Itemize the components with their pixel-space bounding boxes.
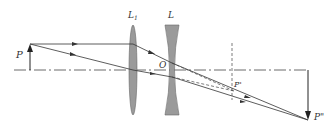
ray-1-arrow [72,42,78,46]
lens1-label: L1 [127,10,138,21]
optical-center-label: O [159,60,167,70]
optics-diagram: P L1 L O P' P" [0,0,336,133]
final-image-label: P" [313,112,324,122]
lens2-label: L [167,10,174,20]
ray-2-arrow-2 [150,72,156,75]
ray-1-arrow-2 [148,50,155,54]
object-arrow [27,44,33,70]
final-image-arrow [305,70,311,120]
intermediate-image-label: P' [233,80,242,89]
object-label: P [15,49,23,60]
